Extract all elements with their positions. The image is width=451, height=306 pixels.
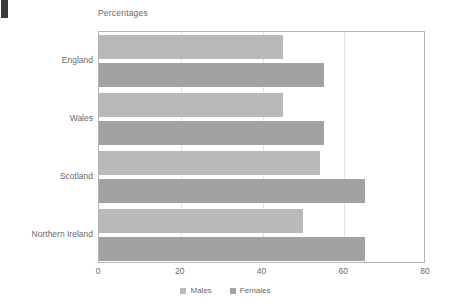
legend-label-females: Females (240, 286, 271, 295)
bar-group-row (99, 35, 424, 59)
legend-label-males: Males (190, 286, 211, 295)
bar-group-row (99, 209, 424, 233)
bar-group-row (99, 237, 424, 261)
bar-england-females (99, 63, 324, 87)
bar-group-row (99, 121, 424, 145)
bar-group-row (99, 151, 424, 175)
x-tick-label-80: 80 (420, 266, 429, 276)
plot-area (98, 31, 425, 263)
bar-wales-males (99, 93, 283, 117)
bar-group-row (99, 63, 424, 87)
x-tick-label-60: 60 (339, 266, 348, 276)
page-edge-marker (1, 0, 8, 18)
bar-group-row (99, 179, 424, 203)
bar-northern-ireland-males (99, 209, 303, 233)
bar-scotland-males (99, 151, 320, 175)
x-tick-label-20: 20 (175, 266, 184, 276)
legend-item-females[interactable]: Females (230, 286, 271, 295)
category-axis-labels: EnglandWalesScotlandNorthern Ireland (0, 31, 93, 263)
chart-page: Percentages EnglandWalesScotlandNorthern… (0, 0, 451, 306)
bar-scotland-females (99, 179, 365, 203)
legend-item-males[interactable]: Males (180, 286, 211, 295)
plot-inner (99, 32, 424, 262)
chart-legend: MalesFemales (0, 286, 451, 295)
x-tick-label-40: 40 (257, 266, 266, 276)
category-label-england: England (0, 55, 93, 65)
legend-swatch-males (180, 288, 186, 294)
category-label-scotland: Scotland (0, 171, 93, 181)
bar-northern-ireland-females (99, 237, 365, 261)
bar-england-males (99, 35, 283, 59)
bar-group-row (99, 93, 424, 117)
value-axis: 020406080 (98, 264, 425, 280)
chart-title: Percentages (98, 8, 148, 18)
x-tick-label-0: 0 (96, 266, 101, 276)
category-label-wales: Wales (0, 113, 93, 123)
legend-swatch-females (230, 288, 236, 294)
bar-wales-females (99, 121, 324, 145)
category-label-northern-ireland: Northern Ireland (0, 229, 93, 239)
